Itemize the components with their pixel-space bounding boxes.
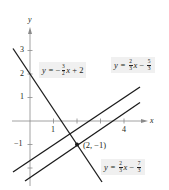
fraction: 23 <box>129 59 133 71</box>
x-tick-label-4: 4 <box>122 126 126 134</box>
point-label: (2, −1) <box>83 141 106 150</box>
x-axis-arrow-icon <box>141 119 148 123</box>
intersection-point <box>75 143 79 147</box>
fraction: 23 <box>119 161 123 173</box>
y-tick-label-3: 3 <box>20 46 24 54</box>
y-tick-label-neg1: −1 <box>14 140 23 148</box>
fraction: 32 <box>62 64 66 76</box>
x-axis-label: x <box>150 117 154 125</box>
equation-label-steep: y = − 32x + 2 <box>39 62 86 78</box>
equation-label-upper-parallel: y = 23x − 53 <box>111 57 155 73</box>
x-tick-label-1: 1 <box>51 126 55 134</box>
y-tick-label-2: 2 <box>20 70 24 78</box>
fraction: 73 <box>137 161 141 173</box>
y-axis-arrow-icon <box>28 27 32 34</box>
equation-label-lower-parallel: y = 23x − 73 <box>101 159 145 175</box>
fraction: 53 <box>147 59 151 71</box>
y-axis-label: y <box>28 16 32 24</box>
y-tick-label-1: 1 <box>20 93 24 101</box>
